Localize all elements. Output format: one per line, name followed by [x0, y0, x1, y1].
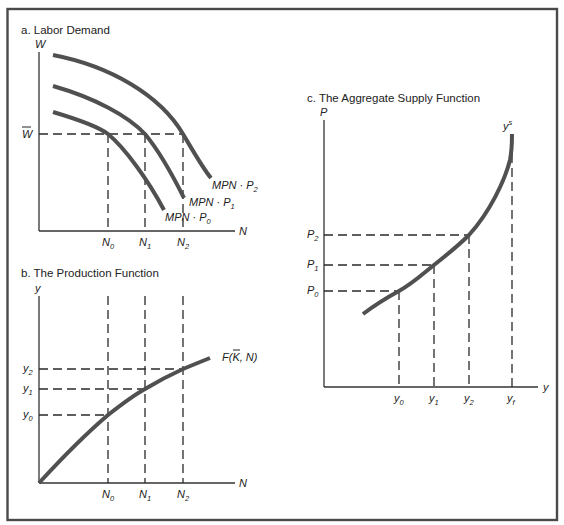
aggregate-supply-derivation-figure: a. Labor Demand W N W MPN · P2 MPN · P1 …: [0, 0, 564, 525]
panel-a-x-axis-label: N: [239, 225, 247, 237]
panel-a-label-mpn-p2: MPN · P2: [212, 179, 259, 194]
panel-b-title: b. The Production Function: [21, 267, 159, 279]
panel-b-tick-y0: y0: [22, 408, 34, 423]
panel-a-title: a. Labor Demand: [21, 24, 110, 36]
panel-c-tick-p0: P0: [307, 284, 319, 299]
panel-b-y-axis-label: y: [34, 282, 42, 294]
panel-c-aggregate-supply: c. The Aggregate Supply Function P y ys …: [307, 92, 550, 407]
panel-b-production-function: b. The Production Function y N F(K, N) y…: [21, 267, 258, 503]
panel-c-x-axis-label: y: [542, 381, 550, 393]
panel-b-tick-n1: N1: [139, 488, 151, 503]
panel-b-curve-label: F(K, N): [222, 351, 258, 363]
panel-c-tick-y1: y1: [428, 392, 439, 407]
panel-c-y-axis-label: P: [320, 106, 328, 118]
panel-a-label-mpn-p0: MPN · P0: [165, 211, 212, 226]
panel-a-tick-n2: N2: [177, 236, 190, 251]
panel-c-curve-aggregate-supply: [363, 134, 512, 314]
panel-c-tick-y0: y0: [393, 392, 405, 407]
panel-b-tick-n2: N2: [177, 488, 190, 503]
panel-a-tick-n1: N1: [139, 236, 151, 251]
panel-b-x-axis-label: N: [239, 477, 247, 489]
panel-c-tick-yf: yf: [506, 392, 516, 407]
panel-a-y-axis-label: W: [35, 38, 47, 50]
panel-a-tick-n0: N0: [102, 236, 115, 251]
panel-c-curve-label-ys: ys: [502, 118, 513, 132]
panel-a-wbar-label: W: [22, 128, 34, 140]
panel-b-tick-n0: N0: [102, 488, 115, 503]
figure-frame: [8, 9, 558, 520]
panel-c-tick-p1: P1: [307, 258, 319, 273]
panel-c-title: c. The Aggregate Supply Function: [307, 92, 480, 104]
panel-b-tick-y2: y2: [22, 362, 34, 377]
panel-b-curve-production-function: [39, 358, 210, 483]
panel-b-tick-y1: y1: [22, 382, 33, 397]
panel-a-labor-demand: a. Labor Demand W N W MPN · P2 MPN · P1 …: [21, 24, 259, 251]
panel-a-label-mpn-p1: MPN · P1: [189, 196, 235, 211]
panel-c-tick-y2: y2: [463, 392, 475, 407]
panel-c-tick-p2: P2: [307, 228, 319, 243]
